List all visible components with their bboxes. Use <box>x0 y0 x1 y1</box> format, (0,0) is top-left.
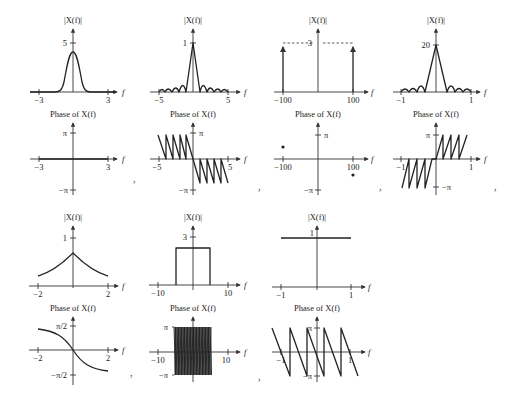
dense-sawtooth-block <box>174 327 212 375</box>
plot-title: |X(f)| <box>64 15 82 25</box>
x-tick-label: 10 <box>224 288 233 298</box>
x-tick-label: 100 <box>347 162 360 172</box>
plot-3-phase: Phase of X(f) π −π −100 100 f <box>274 109 375 195</box>
separator: , <box>379 181 382 192</box>
y-tick-label: 1 <box>310 228 314 238</box>
x-tick-label: −3 <box>34 95 43 105</box>
x-axis-label: f <box>244 154 248 164</box>
separator: , <box>258 181 261 192</box>
abs-sinc-curve <box>159 43 228 92</box>
phase-point-neg100 <box>281 145 284 148</box>
x-tick-label: 2 <box>106 289 110 299</box>
y-tick-label: −π <box>442 182 452 192</box>
y-tick-label: −π <box>179 185 189 195</box>
plot-title: Phase of X(f) <box>50 109 96 119</box>
x-tick-label: 1 <box>469 95 473 105</box>
separator: , <box>130 367 133 378</box>
plot-title: |X(f)| <box>308 212 326 222</box>
sawtooth-phase-curve <box>402 135 467 188</box>
x-tick-label: −5 <box>154 95 163 105</box>
plot-3-magnitude: |X(f)| 3 −100 100 f <box>274 15 375 105</box>
plot-5-phase: Phase of X(f) π/2 −π/2 −2 2 f <box>29 303 126 385</box>
y-tick-label: 1 <box>63 233 67 243</box>
y-tick-label: π <box>164 322 169 332</box>
plot-title: Phase of X(f) <box>413 109 459 119</box>
x-axis-label: f <box>244 347 248 357</box>
y-tick-label: −π <box>304 185 314 195</box>
plot-title: Phase of X(f) <box>170 109 216 119</box>
x-tick-label: 3 <box>106 162 110 172</box>
y-tick-label: 3 <box>308 38 312 48</box>
plot-title: Phase of X(f) <box>294 303 340 313</box>
plot-6-magnitude: |X(f)| 3 −10 10 f <box>149 212 248 298</box>
x-tick-label: −2 <box>33 353 42 363</box>
plot-title: Phase of X(f) <box>295 109 341 119</box>
x-axis-label: f <box>368 282 372 292</box>
x-tick-label: −1 <box>276 290 285 300</box>
plot-2-phase: Phase of X(f) π −π −5 5 f <box>150 109 248 195</box>
x-tick-label: 5 <box>226 95 230 105</box>
x-tick-label: 3 <box>106 95 110 105</box>
plot-title: |X(f)| <box>427 15 445 25</box>
x-tick-label: −1 <box>396 162 405 172</box>
y-tick-label: 3 <box>183 232 187 242</box>
plot-title: |X(f)| <box>309 15 327 25</box>
y-tick-label: π <box>324 130 329 140</box>
x-axis-label: f <box>368 347 372 357</box>
plot-2-magnitude: |X(f)| 1 −5 5 f <box>150 15 248 105</box>
plot-4-magnitude: |X(f)| 20 −1 1 f <box>393 15 488 105</box>
x-axis-label: f <box>484 87 488 97</box>
plot-1-phase: Phase of X(f) π −π −3 3 f <box>30 109 126 195</box>
y-tick-label: 20 <box>422 40 431 50</box>
x-tick-label: −10 <box>151 355 164 365</box>
x-axis-label: f <box>122 345 126 355</box>
plot-title: Phase of X(f) <box>50 303 96 313</box>
x-tick-label: −3 <box>34 162 43 172</box>
x-axis-label: f <box>371 154 375 164</box>
plot-7-magnitude: |X(f)| 1 −1 1 f <box>272 212 372 300</box>
x-axis-label: f <box>244 87 248 97</box>
x-axis-label: f <box>484 154 488 164</box>
y-tick-label: −π <box>303 371 313 381</box>
x-tick-label: −10 <box>151 288 164 298</box>
y-tick-label: −π/2 <box>51 370 67 380</box>
x-tick-label: 100 <box>347 95 360 105</box>
y-tick-label: 1 <box>183 38 187 48</box>
plot-1-magnitude: |X(f)| 5 −3 3 f <box>30 15 126 105</box>
plot-title: Phase of X(f) <box>170 303 216 313</box>
plot-title: |X(f)| <box>184 15 202 25</box>
plot-5-magnitude: |X(f)| 1 −2 2 f <box>29 212 126 299</box>
y-tick-label: π <box>63 128 68 138</box>
y-tick-label: 5 <box>63 38 67 48</box>
plot-4-phase: Phase of X(f) π −π −1 1 f <box>393 109 488 195</box>
x-tick-label: 5 <box>228 162 232 172</box>
x-tick-label: 2 <box>106 353 110 363</box>
spectra-figure: |X(f)| 5 −3 3 f Phase of X(f) π −π −3 3 … <box>0 0 513 399</box>
separator: , <box>494 181 497 192</box>
plot-title: |X(f)| <box>184 212 202 222</box>
x-axis-label: f <box>122 87 126 97</box>
x-tick-label: 1 <box>469 162 473 172</box>
x-axis-label: f <box>122 154 126 164</box>
x-tick-label: −1 <box>396 95 405 105</box>
x-tick-label: −100 <box>274 162 292 172</box>
x-axis-label: f <box>244 280 248 290</box>
separator: , <box>258 371 261 382</box>
x-tick-label: 1 <box>349 290 353 300</box>
y-tick-label: −π <box>59 185 69 195</box>
x-tick-label: −100 <box>274 95 292 105</box>
x-tick-label: 10 <box>222 355 231 365</box>
x-tick-label: −2 <box>33 289 42 299</box>
plot-7-phase: Phase of X(f) π −π −1 1 f <box>272 303 372 382</box>
y-tick-label: −π <box>159 370 169 380</box>
y-tick-label: π <box>426 130 431 140</box>
y-tick-label: π <box>199 128 204 138</box>
x-axis-label: f <box>122 281 126 291</box>
y-tick-label: π/2 <box>56 321 67 331</box>
separator: , <box>133 173 136 184</box>
x-tick-label: −5 <box>152 162 161 172</box>
plot-6-phase: Phase of X(f) π −π −10 10 f <box>149 303 248 382</box>
plot-title: |X(f)| <box>64 212 82 222</box>
phase-point-pos100 <box>351 173 354 176</box>
gaussian-curve <box>30 52 115 92</box>
